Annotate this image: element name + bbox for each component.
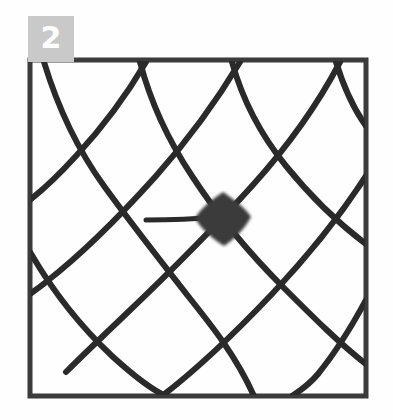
figure-panel: 2	[0, 0, 393, 420]
panel-index-text: 2	[41, 23, 62, 53]
mesh-drawing	[0, 0, 393, 420]
panel-index-label: 2	[28, 16, 74, 62]
